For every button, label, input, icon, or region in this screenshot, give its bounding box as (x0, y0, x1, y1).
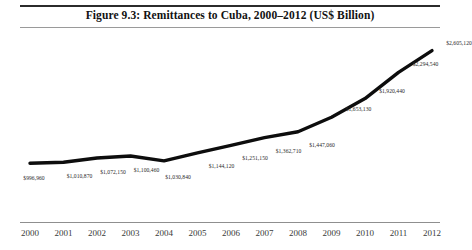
figure-title: Figure 9.3: Remittances to Cuba, 2000–20… (20, 9, 440, 21)
x-tick-label-2000: 2000 (21, 228, 39, 238)
x-tick-label-2002: 2002 (88, 228, 106, 238)
x-tick-label-2010: 2010 (356, 228, 374, 238)
data-point-label: $1,251,150 (242, 155, 268, 161)
data-point-label: $1,144,120 (209, 163, 235, 169)
x-tick-label-2011: 2011 (390, 228, 408, 238)
data-point-label: $1,362,710 (276, 148, 302, 154)
x-tick-label-2008: 2008 (289, 228, 307, 238)
header-rule-bottom (20, 27, 440, 28)
data-point-label: $2,605,120 (446, 40, 472, 46)
data-point-label: $1,072,150 (100, 169, 126, 175)
data-point-label: $1,010,870 (67, 173, 93, 179)
data-point-label: $1,920,440 (379, 88, 405, 94)
x-tick-label-2003: 2003 (122, 228, 140, 238)
data-point-label: $1,653,130 (346, 106, 372, 112)
x-tick-label-2012: 2012 (423, 228, 441, 238)
header-rule-top (20, 5, 440, 7)
data-point-label: $996,960 (23, 175, 44, 181)
data-point-label: $1,100,460 (134, 167, 160, 173)
x-tick-label-2007: 2007 (256, 228, 274, 238)
remittances-series-line (30, 51, 432, 164)
x-axis: 2000200120022003200420052006200720082009… (0, 222, 460, 250)
data-point-label: $1,030,840 (165, 174, 191, 180)
x-tick-label-2004: 2004 (155, 228, 173, 238)
x-tick-label-2001: 2001 (55, 228, 73, 238)
figure-header: Figure 9.3: Remittances to Cuba, 2000–20… (0, 0, 460, 30)
x-tick-label-2006: 2006 (222, 228, 240, 238)
data-point-label: $2,294,540 (413, 61, 439, 67)
x-axis-rule (20, 222, 440, 223)
x-tick-label-2005: 2005 (189, 228, 207, 238)
x-axis-tick-labels: 2000200120022003200420052006200720082009… (0, 228, 460, 244)
x-tick-label-2009: 2009 (323, 228, 341, 238)
remittances-line-chart (0, 30, 460, 222)
data-point-label: $1,447,060 (309, 142, 335, 148)
chart-plot-area: $996,960$1,010,870$1,072,150$1,100,460$1… (0, 30, 460, 222)
